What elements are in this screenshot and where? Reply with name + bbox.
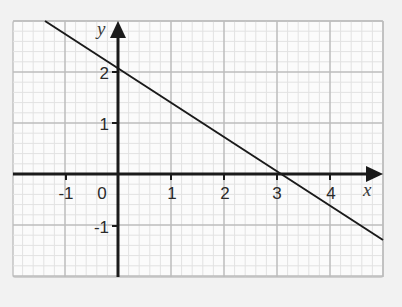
plot-area <box>13 21 383 277</box>
x-tick-label: 2 <box>220 184 229 203</box>
y-tick-label: 2 <box>100 64 109 83</box>
x-tick-label: 4 <box>326 184 335 203</box>
y-tick-label: 1 <box>100 115 109 134</box>
x-tick-label: 1 <box>167 184 176 203</box>
x-tick-label: -1 <box>58 184 73 203</box>
x-axis-label: x <box>362 179 372 200</box>
line-graph: -1 0 1 2 3 4 2 1 -1 y x <box>0 0 402 307</box>
y-axis-label: y <box>95 18 106 39</box>
y-tick-label: -1 <box>94 218 109 237</box>
origin-label: 0 <box>97 184 106 203</box>
x-tick-label: 3 <box>272 184 281 203</box>
